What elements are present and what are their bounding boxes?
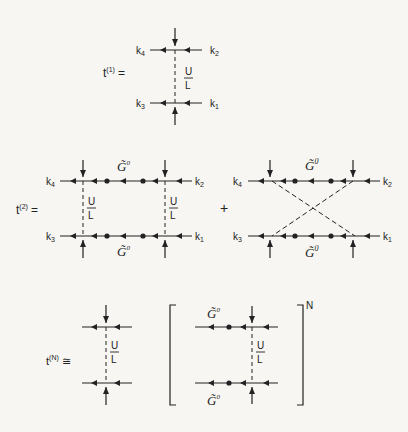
arrow-left-icon (152, 178, 158, 184)
dot-icon (292, 178, 297, 183)
arrow-left-icon (70, 233, 76, 239)
arrow-up-icon (249, 387, 255, 394)
t2-crossed-diagram: G̃0 G̃0 k4 k2 k3 k1 (233, 157, 392, 260)
arrow-left-icon (152, 233, 158, 239)
tN-U: U (111, 340, 118, 351)
t2-crossed-k2: k2 (383, 176, 392, 188)
t1-k1: k1 (210, 98, 219, 110)
arrow-down-icon (267, 170, 273, 177)
tN-label: t(N)≅ (46, 354, 71, 367)
tN-G-bottom: G̃0 (207, 393, 220, 408)
dot-icon (292, 233, 297, 238)
t2-ladder-L-right: L (170, 210, 176, 221)
arrow-up-icon (172, 107, 178, 114)
t2-ladder-k4: k4 (46, 176, 55, 188)
dot-icon (226, 380, 231, 385)
arrow-left-icon (120, 178, 126, 184)
arrow-up-icon (267, 240, 273, 247)
arrow-up-icon (350, 240, 356, 247)
tN-diagram: t(N)≅ U L N U (46, 300, 313, 408)
arrow-down-icon (162, 170, 168, 177)
arrow-left-icon (91, 178, 97, 184)
tN-L: L (111, 354, 117, 365)
arrow-up-icon (103, 387, 109, 394)
arrow-left-icon (280, 233, 286, 239)
arrow-left-icon (70, 178, 76, 184)
dot-icon (328, 178, 333, 183)
t1-L: L (185, 80, 191, 91)
tN-G-top: G̃0 (207, 306, 220, 321)
t2-ladder-U-left: U (88, 196, 95, 207)
t2-ladder-k3: k3 (46, 231, 55, 243)
arrow-left-icon (258, 233, 264, 239)
dot-icon (328, 233, 333, 238)
dot-icon (140, 178, 145, 183)
arrow-left-icon (184, 47, 190, 53)
arrow-left-icon (91, 324, 97, 330)
t2-crossed-k3: k3 (233, 231, 242, 243)
arrow-left-icon (280, 178, 286, 184)
arrow-left-icon (114, 324, 120, 330)
plus-sign: + (220, 200, 228, 216)
arrow-down-icon (350, 170, 356, 177)
arrow-down-icon (80, 170, 86, 177)
power-N: N (306, 300, 313, 311)
t1-label: t(1)= (103, 66, 125, 80)
tN-bracket-L: L (257, 354, 263, 365)
t2-ladder-k2: k2 (195, 176, 204, 188)
arrow-left-icon (364, 178, 370, 184)
t1-k4: k4 (136, 45, 145, 57)
right-bracket (297, 305, 303, 405)
arrow-left-icon (364, 233, 370, 239)
arrow-left-icon (114, 380, 120, 386)
t2-crossed-G-top: G̃0 (305, 157, 318, 173)
t2-ladder-L-left: L (88, 210, 94, 221)
t1-U: U (185, 66, 192, 77)
arrow-left-icon (160, 100, 166, 106)
arrow-left-icon (208, 380, 214, 386)
arrow-left-icon (208, 324, 214, 330)
t2-label: t(2)= (16, 203, 38, 217)
arrow-left-icon (308, 178, 314, 184)
dot-icon (104, 178, 109, 183)
t2-ladder-diagram: U L U L G̃0 G̃0 k4 k2 k3 k1 (46, 159, 204, 259)
arrow-left-icon (176, 178, 182, 184)
t2-crossed-k1: k1 (383, 231, 392, 243)
arrow-left-icon (184, 100, 190, 106)
t1-k2: k2 (210, 45, 219, 57)
arrow-left-icon (340, 178, 346, 184)
arrow-down-icon (249, 316, 255, 323)
dot-icon (140, 233, 145, 238)
arrow-down-icon (103, 316, 109, 323)
arrow-left-icon (240, 380, 246, 386)
left-bracket (170, 305, 176, 405)
arrow-up-icon (162, 240, 168, 247)
t2-crossed-G-bottom: G̃0 (305, 244, 318, 260)
dot-icon (226, 324, 231, 329)
arrow-left-icon (176, 233, 182, 239)
t2-ladder-G-bottom: G̃0 (117, 244, 130, 259)
t2-ladder-U-right: U (170, 196, 177, 207)
arrow-left-icon (120, 233, 126, 239)
t1-k3: k3 (136, 98, 145, 110)
arrow-left-icon (308, 233, 314, 239)
dot-icon (104, 233, 109, 238)
arrow-left-icon (258, 178, 264, 184)
arrow-left-icon (240, 324, 246, 330)
arrow-left-icon (91, 380, 97, 386)
t1-diagram: t(1)= U L k4 k2 k3 k1 (103, 28, 219, 125)
feynman-diagram-figure: t(1)= U L k4 k2 k3 k1 t(2)= (0, 0, 408, 432)
arrow-left-icon (263, 380, 269, 386)
t2-crossed-k4: k4 (233, 176, 242, 188)
t2-ladder-k1: k1 (195, 231, 204, 243)
arrow-left-icon (340, 233, 346, 239)
arrow-down-icon (172, 39, 178, 46)
arrow-left-icon (160, 47, 166, 53)
tN-bracket-U: U (257, 340, 264, 351)
arrow-left-icon (263, 324, 269, 330)
arrow-left-icon (91, 233, 97, 239)
arrow-up-icon (80, 240, 86, 247)
t2-ladder-G-top: G̃0 (117, 159, 130, 174)
